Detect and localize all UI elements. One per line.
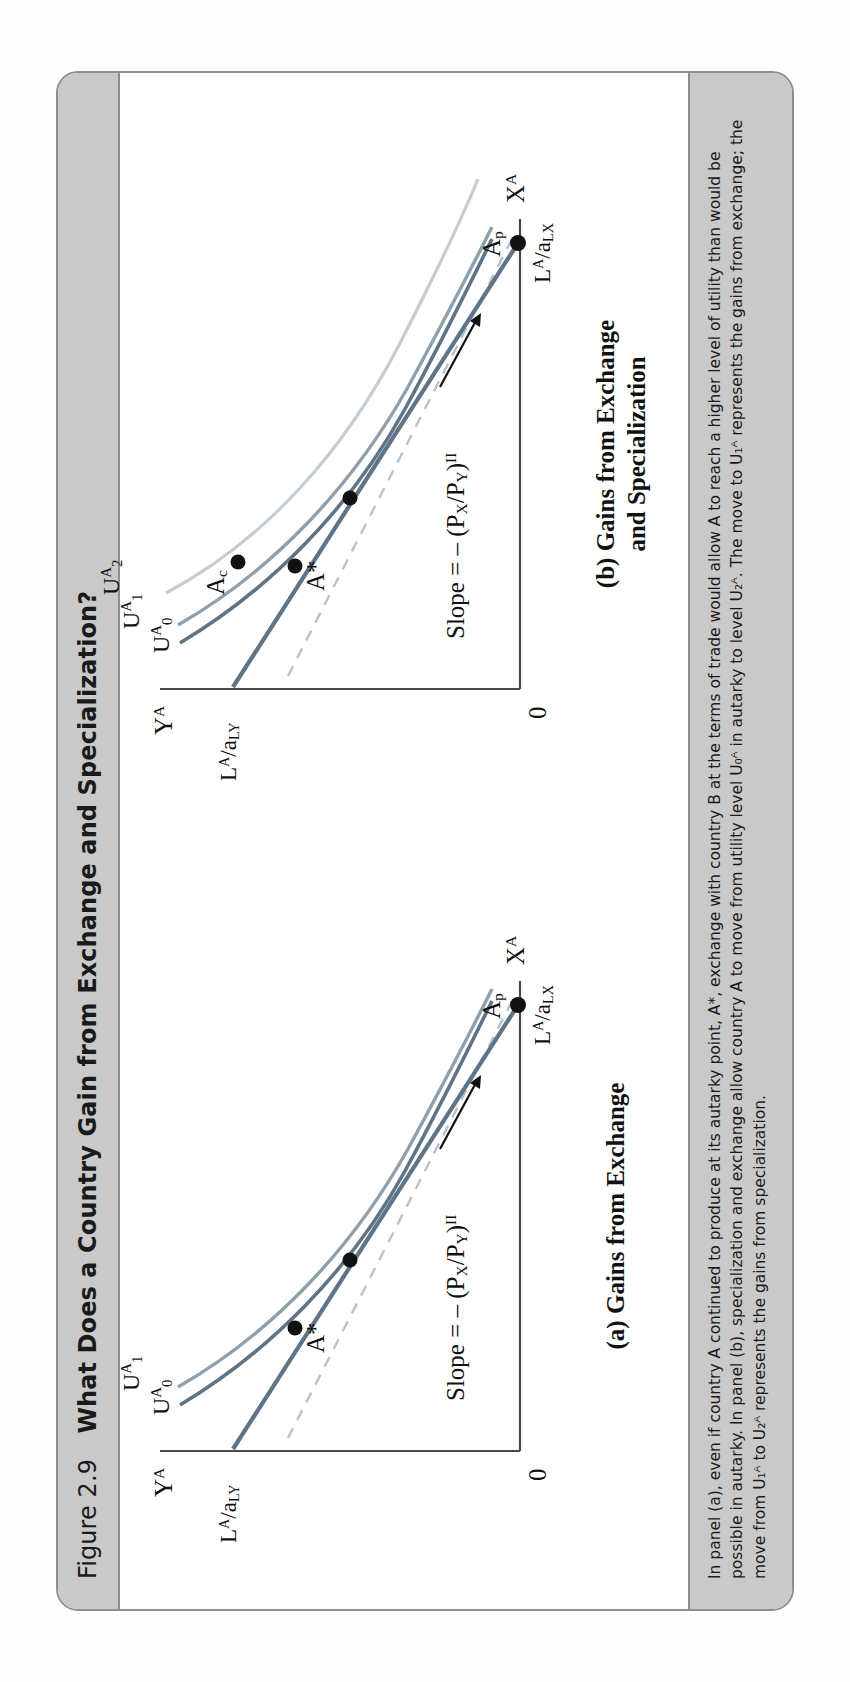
panel-a-curve-label-u1: UA1: [118, 1355, 146, 1391]
panel-b-curve-u2: [166, 179, 478, 593]
panel-b-point-autarky: [288, 559, 303, 574]
panel-b-curve-label-u2: UA2: [98, 559, 126, 595]
rotated-figure-wrapper: Figure 2.9 What Does a Country Gain from…: [56, 71, 794, 1611]
figure-caption: In panel (a), even if country A continue…: [704, 103, 771, 1579]
panel-b-slope-label: Slope = – (PX/PY)II: [442, 453, 471, 639]
panel-a-x-intercept-label: LA/aLX: [530, 985, 557, 1045]
panel-a-x-axis-label: XA: [502, 936, 530, 965]
panel-b-title: (b) Gains from Exchange and Specializati…: [590, 219, 653, 689]
panel-b-y-axis-label: YA: [150, 706, 178, 735]
panel-b-x-axis-label: XA: [502, 174, 530, 203]
panel-a-point-production: [510, 997, 526, 1013]
panel-b-curve-label-u1: UA1: [118, 593, 146, 629]
panel-b-y-intercept-label: LA/aLY: [216, 722, 243, 781]
figure-frame: Figure 2.9 What Does a Country Gain from…: [56, 71, 794, 1611]
panel-b: YA XA 0 LA/aLY LA/aLX Ap Ac A*: [120, 89, 692, 839]
panel-b-point-unlabeled: [343, 491, 358, 506]
panel-a-y-axis-label: YA: [150, 1468, 178, 1497]
plot-area: YA XA 0 LA/aLY LA/aLX Ap A* UA0: [120, 73, 692, 1609]
panel-a-ppf-line: [233, 1005, 518, 1449]
figure-page: Figure 2.9 What Does a Country Gain from…: [0, 0, 850, 1682]
panel-b-autarky-point-label: A*: [302, 560, 330, 591]
panel-a-title: (a) Gains from Exchange: [600, 981, 631, 1451]
panel-a-y-intercept-label: LA/aLY: [216, 1484, 243, 1543]
panel-b-origin-label: 0: [524, 707, 552, 720]
figure-title-bar: Figure 2.9 What Does a Country Gain from…: [58, 73, 120, 1609]
panel-b-consumption-point-label: Ac: [202, 570, 231, 595]
panel-a-production-point-label: Ap: [478, 993, 507, 1019]
panel-a-slope-label: Slope = – (PX/PY)II: [442, 1215, 471, 1401]
panel-b-curve-label-u0: UA0: [148, 617, 176, 653]
panel-a-point-unlabeled: [343, 1253, 358, 1268]
panel-a: YA XA 0 LA/aLY LA/aLX Ap A* UA0: [120, 851, 692, 1601]
panel-a-origin-label: 0: [524, 1469, 552, 1482]
panel-a-point-autarky: [288, 1321, 303, 1336]
panel-a-autarky-point-label: A*: [302, 1322, 330, 1353]
panel-b-point-production: [510, 235, 526, 251]
panel-b-x-intercept-label: LA/aLX: [530, 223, 557, 283]
figure-title-text: What Does a Country Gain from Exchange a…: [74, 591, 102, 1434]
panel-b-production-point-label: Ap: [478, 231, 507, 257]
figure-caption-bar: In panel (a), even if country A continue…: [688, 73, 792, 1609]
panel-a-curve-label-u0: UA0: [148, 1379, 176, 1415]
panel-b-ppf-line: [233, 243, 518, 687]
figure-number: Figure 2.9: [74, 1459, 102, 1579]
figure-title: Figure 2.9 What Does a Country Gain from…: [74, 591, 102, 1579]
panel-b-point-consumption: [231, 555, 246, 570]
